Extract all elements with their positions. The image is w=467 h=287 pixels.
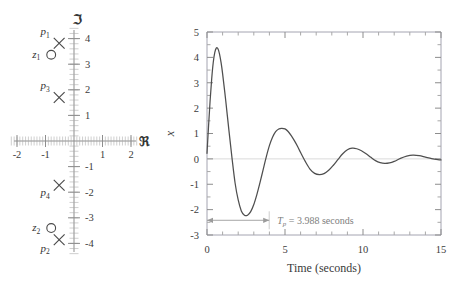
- y-tick-label: -3: [190, 230, 199, 241]
- y-tick-label: 4: [194, 52, 200, 63]
- imag-tick-label: 3: [85, 59, 90, 70]
- x-axis-title: Time (seconds): [287, 261, 361, 275]
- response-curve: [207, 48, 441, 216]
- pole-zero-svg: 4321-1-2-3-4 -2-112 ℑ ℜ p1z1p3p4z2p2: [0, 0, 170, 287]
- x-tick-label: 15: [436, 244, 447, 255]
- y-tick-label: 2: [194, 103, 199, 114]
- marker-label-p3: p3: [40, 79, 51, 94]
- imag-tick-label: -4: [85, 238, 94, 249]
- pole-zero-marker-z2: z2: [31, 221, 55, 236]
- y-tick-label: -2: [190, 204, 199, 215]
- y-tick-label: 1: [194, 128, 199, 139]
- real-tick-label: -1: [41, 149, 50, 160]
- imag-tick-label: 2: [85, 84, 90, 95]
- response-svg: -3-2-1012345 051015 Tp = 3.988 seconds T…: [160, 0, 467, 287]
- marker-label-p2: p2: [40, 242, 51, 256]
- pole-zero-panel: 4321-1-2-3-4 -2-112 ℑ ℜ p1z1p3p4z2p2: [0, 0, 170, 287]
- real-axis-symbol: ℜ: [139, 134, 150, 149]
- minor-ticks: [207, 32, 441, 235]
- pole-zero-marker-p1: p1: [40, 25, 65, 48]
- response-panel: -3-2-1012345 051015 Tp = 3.988 seconds T…: [160, 0, 467, 287]
- imag-tick-label: -3: [85, 212, 94, 223]
- imag-tick-label: -1: [85, 161, 94, 172]
- imag-tick-label: 4: [85, 33, 91, 44]
- pole-zero-marker-p3: p3: [40, 79, 65, 102]
- peak-time-arrow-right: [263, 218, 269, 223]
- imag-tick-label: 1: [85, 110, 90, 121]
- real-tick-label: 2: [128, 149, 133, 160]
- marker-label-p1: p1: [40, 25, 51, 40]
- peak-time-annotation: Tp = 3.988 seconds: [207, 211, 354, 229]
- figure-container: 4321-1-2-3-4 -2-112 ℑ ℜ p1z1p3p4z2p2 -3-…: [0, 0, 467, 287]
- y-tick-label: 0: [194, 154, 199, 165]
- plot-frame: [207, 32, 441, 235]
- marker-label-z2: z2: [31, 221, 40, 236]
- real-tick-label: -2: [13, 149, 22, 160]
- real-tick-label: 1: [100, 149, 105, 160]
- pole-zero-marker-z1: z1: [31, 48, 55, 63]
- marker-label-z1: z1: [31, 48, 40, 63]
- y-tick-label: -1: [190, 179, 199, 190]
- x-tick-label: 5: [282, 244, 287, 255]
- pole-zero-marker-p2: p2: [40, 234, 65, 256]
- y-tick-label: 5: [194, 27, 199, 38]
- peak-time-label: Tp = 3.988 seconds: [277, 215, 353, 228]
- x-tick-label: 10: [358, 244, 369, 255]
- pole-zero-marker-p4: p4: [40, 180, 65, 201]
- x-tick-label: 0: [204, 244, 209, 255]
- y-axis-title: x: [163, 130, 177, 137]
- imag-tick-label: -2: [85, 187, 94, 198]
- y-tick-label: 3: [194, 78, 199, 89]
- y-axis-ticks: -3-2-1012345: [190, 27, 441, 241]
- marker-label-p4: p4: [40, 186, 51, 201]
- imaginary-axis-symbol: ℑ: [72, 12, 82, 27]
